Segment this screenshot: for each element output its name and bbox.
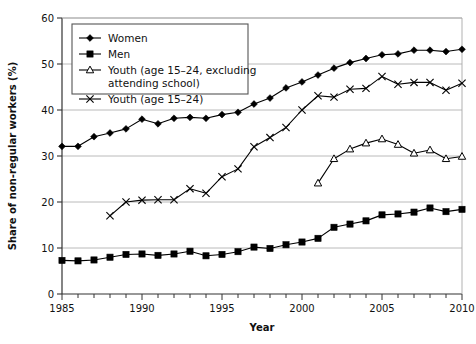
data-point — [218, 173, 225, 180]
marker-square — [187, 248, 193, 254]
marker-square — [123, 251, 129, 257]
y-axis-tick-label: 60 — [41, 13, 54, 24]
marker-diamond — [139, 116, 146, 123]
data-point — [459, 46, 466, 53]
data-point — [267, 95, 274, 102]
data-point — [123, 251, 129, 257]
series-men — [59, 205, 465, 264]
marker-diamond — [443, 48, 450, 55]
y-axis-tick-label: 20 — [41, 197, 54, 208]
marker-square — [251, 244, 257, 250]
marker-diamond — [363, 55, 370, 62]
marker-square — [347, 221, 353, 227]
marker-diamond — [315, 72, 322, 79]
data-point — [75, 258, 81, 264]
data-point — [363, 55, 370, 62]
data-point — [427, 205, 433, 211]
data-point — [235, 249, 241, 255]
marker-diamond — [155, 120, 162, 127]
data-point — [186, 185, 193, 192]
marker-square — [219, 251, 225, 257]
y-axis-tick-label: 50 — [41, 59, 54, 70]
data-point — [187, 114, 194, 121]
data-point — [87, 51, 93, 57]
data-point — [171, 251, 177, 257]
data-point — [251, 244, 257, 250]
y-axis-tick-label: 30 — [41, 151, 54, 162]
marker-square — [203, 253, 209, 259]
data-point — [459, 206, 465, 212]
data-point — [427, 47, 434, 54]
legend-label-continued: attending school) — [108, 77, 200, 89]
marker-triangle-open — [426, 146, 433, 153]
data-point — [426, 146, 433, 153]
data-point — [107, 254, 113, 260]
marker-diamond — [59, 143, 66, 150]
marker-square — [107, 254, 113, 260]
data-point — [282, 124, 289, 131]
data-point — [363, 218, 369, 224]
series-line — [62, 208, 462, 261]
data-point — [331, 65, 338, 72]
marker-diamond — [107, 130, 114, 137]
data-point — [395, 211, 401, 217]
marker-diamond — [347, 59, 354, 66]
data-point — [314, 179, 321, 186]
marker-square — [155, 252, 161, 258]
data-point — [267, 245, 273, 251]
data-point — [123, 125, 130, 132]
data-point — [378, 73, 385, 80]
data-point — [299, 79, 306, 86]
marker-diamond — [123, 125, 130, 132]
data-point — [203, 253, 209, 259]
x-axis-tick-label: 2010 — [449, 303, 474, 314]
data-point — [347, 59, 354, 66]
marker-diamond — [283, 85, 290, 92]
line-chart: 0102030405060198519901995200020052010Yea… — [0, 0, 476, 344]
series-youth-age-15-24-excluding-attending-school — [314, 135, 465, 186]
data-point — [234, 165, 241, 172]
y-axis-tick-label: 0 — [48, 289, 54, 300]
y-axis-title: Share of non-regular workers (%) — [7, 62, 18, 251]
marker-square — [91, 257, 97, 263]
marker-square — [299, 239, 305, 245]
data-point — [155, 120, 162, 127]
marker-square — [363, 218, 369, 224]
y-axis-tick-label: 40 — [41, 105, 54, 116]
data-point — [443, 48, 450, 55]
data-point — [187, 248, 193, 254]
marker-square — [459, 206, 465, 212]
data-point — [347, 221, 353, 227]
marker-diamond — [427, 47, 434, 54]
marker-square — [411, 209, 417, 215]
marker-diamond — [299, 79, 306, 86]
legend-label: Women — [108, 32, 148, 44]
x-axis-tick-label: 2005 — [369, 303, 394, 314]
legend-label: Youth (age 15–24, excluding — [107, 64, 256, 76]
marker-diamond — [91, 133, 98, 140]
data-point — [411, 209, 417, 215]
data-point — [331, 224, 337, 230]
marker-triangle-open — [314, 179, 321, 186]
data-point — [315, 72, 322, 79]
x-axis-title: Year — [249, 322, 275, 333]
data-point — [139, 116, 146, 123]
data-point — [315, 235, 321, 241]
data-point — [379, 51, 386, 58]
x-axis-tick-label: 1985 — [49, 303, 74, 314]
data-point — [443, 209, 449, 215]
marker-diamond — [411, 47, 418, 54]
data-point — [379, 212, 385, 218]
marker-diamond — [379, 51, 386, 58]
marker-diamond — [395, 50, 402, 57]
marker-square — [379, 212, 385, 218]
marker-triangle-open — [378, 135, 385, 142]
data-point — [251, 101, 258, 108]
data-point — [283, 242, 289, 248]
y-axis-tick-label: 10 — [41, 243, 54, 254]
legend: WomenMenYouth (age 15–24, excludingatten… — [72, 24, 256, 105]
data-point — [442, 87, 449, 94]
marker-square — [315, 235, 321, 241]
marker-diamond — [187, 114, 194, 121]
data-point — [219, 251, 225, 257]
